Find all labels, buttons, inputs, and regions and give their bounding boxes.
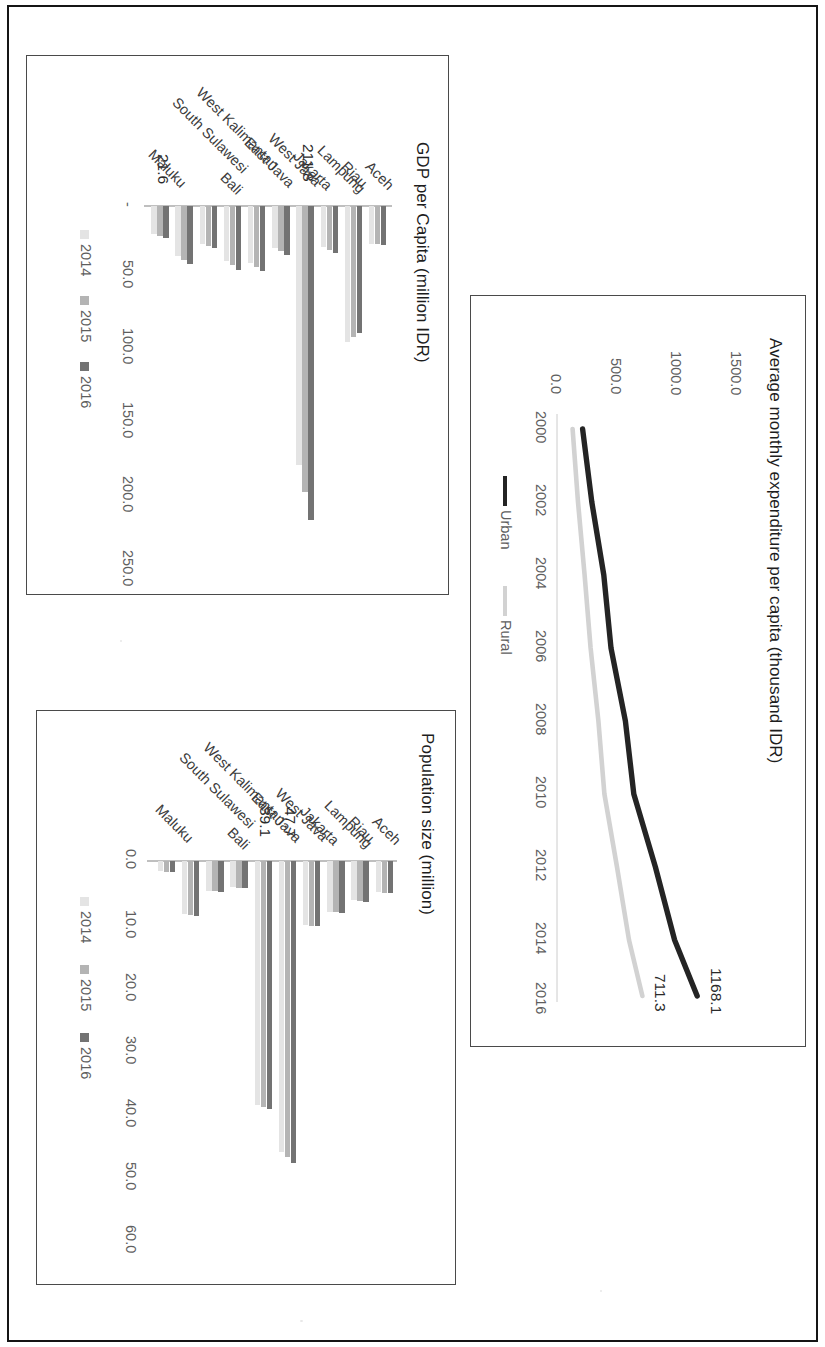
gdp-bar-aceh-2015: [375, 206, 380, 244]
gdp-bar-aceh-2014: [369, 206, 374, 244]
gdp-xtick-0: -: [120, 202, 136, 207]
population-cat-label-maluku: Maluku: [152, 801, 196, 845]
gdp-bar-bali-2014: [224, 206, 229, 261]
expenditure-legend-label-rural[interactable]: Rural: [498, 620, 514, 655]
population-legend-swatch-2015: [80, 965, 89, 974]
population-xtick-0: 0.0: [123, 849, 139, 869]
chart-box-gdp: GDP per Capita (million IDR): [26, 55, 449, 595]
pop-bar-maluku-2015: [164, 861, 169, 872]
population-legend-swatch-2016: [80, 1033, 89, 1042]
pop-bar-west-java-2015: [285, 861, 290, 1157]
pop-bar-jakarta-2014: [303, 861, 308, 925]
gdp-bar-east-java-2014: [248, 206, 253, 263]
expenditure-data-label-urban: 1168.1: [707, 968, 725, 1014]
pop-bar-bali-2014: [230, 861, 235, 887]
gdp-bar-west-java-2014: [272, 206, 277, 248]
population-xtick-1: 10.0: [123, 910, 139, 938]
gdp-xtick-1: 50.0: [120, 260, 136, 288]
pop-bar-east-java-2014: [255, 861, 260, 1105]
expenditure-xtick-2014: 2014: [533, 922, 549, 954]
population-legend-swatch-2014: [80, 897, 89, 906]
gdp-bar-lampung-2014: [321, 206, 326, 247]
expenditure-ytick-2: 1000.0: [668, 351, 684, 395]
gdp-legend-swatch-2015: [80, 296, 89, 305]
gdp-legend-label-2014[interactable]: 2014: [78, 244, 94, 276]
pop-bar-aceh-2015: [382, 861, 387, 893]
expenditure-xtick-2004: 2004: [533, 557, 549, 589]
gdp-xtick-2: 100.0: [120, 328, 136, 364]
gdp-bar-jakarta-2016: [308, 206, 313, 520]
chart-box-expenditure: Average monthly expenditure per capita (…: [470, 295, 806, 1047]
pop-bar-west-kalimantan-2015: [212, 861, 217, 891]
pop-bar-east-java-2016: [267, 861, 272, 1109]
population-xtick-6: 60.0: [123, 1225, 139, 1253]
population-legend-label-2014[interactable]: 2014: [78, 911, 94, 943]
pop-bar-riau-2015: [357, 861, 362, 901]
pop-bar-west-java-2014: [279, 861, 284, 1152]
pop-bar-west-kalimantan-2016: [218, 861, 223, 892]
expenditure-legend-line-urban: [503, 476, 507, 506]
scan-speck: [600, 1290, 602, 1292]
gdp-bar-south-sulawesi-2014: [175, 206, 180, 256]
gdp-bar-maluku-2014: [151, 206, 156, 234]
pop-bar-west-java-2016: [291, 861, 296, 1163]
pop-bar-bali-2016: [242, 861, 247, 888]
gdp-bar-bali-2015: [230, 206, 235, 265]
population-chart-title: Population size (million): [417, 733, 437, 915]
gdp-bar-west-kalimantan-2016: [212, 206, 217, 248]
gdp-bar-south-sulawesi-2016: [187, 206, 192, 264]
pop-bar-riau-2014: [351, 861, 356, 900]
expenditure-xtick-2016: 2016: [533, 982, 549, 1014]
gdp-bar-riau-2015: [351, 206, 356, 337]
pop-bar-riau-2016: [363, 861, 368, 902]
gdp-bar-east-java-2016: [260, 206, 265, 271]
scan-speck: [300, 1320, 303, 1322]
gdp-bar-lampung-2015: [327, 206, 332, 250]
expenditure-legend-line-rural: [503, 586, 507, 616]
scan-speck: [120, 640, 122, 642]
gdp-bar-maluku-2016: [163, 206, 168, 238]
population-legend-label-2015[interactable]: 2015: [78, 979, 94, 1011]
pop-bar-south-sulawesi-2014: [182, 861, 187, 914]
gdp-bar-west-kalimantan-2014: [200, 206, 205, 244]
expenditure-xtick-2002: 2002: [533, 484, 549, 516]
pop-bar-bali-2015: [236, 861, 241, 888]
expenditure-xtick-2000: 2000: [533, 411, 549, 443]
pop-bar-east-java-2015: [261, 861, 266, 1107]
pop-bar-jakarta-2015: [309, 861, 314, 926]
gdp-xtick-3: 150.0: [120, 402, 136, 438]
gdp-bar-jakarta-2014: [296, 206, 301, 465]
expenditure-data-label-rural: 711.3: [651, 974, 669, 1012]
gdp-bar-east-java-2015: [254, 206, 259, 267]
gdp-bar-south-sulawesi-2015: [181, 206, 186, 260]
population-xtick-5: 50.0: [123, 1162, 139, 1190]
gdp-xtick-5: 250.0: [120, 550, 136, 586]
gdp-bar-west-java-2015: [278, 206, 283, 251]
expenditure-xtick-2012: 2012: [533, 849, 549, 881]
scanned-page: GDP per Capita (million IDR): [0, 0, 825, 1347]
pop-bar-aceh-2016: [388, 861, 393, 893]
gdp-bar-aceh-2016: [381, 206, 386, 245]
expenditure-legend-label-urban[interactable]: Urban: [498, 510, 514, 550]
gdp-bar-lampung-2016: [333, 206, 338, 253]
population-xtick-4: 40.0: [123, 1099, 139, 1127]
expenditure-xtick-2008: 2008: [533, 703, 549, 735]
gdp-legend-swatch-2014: [80, 230, 89, 239]
population-legend-label-2016[interactable]: 2016: [78, 1047, 94, 1079]
gdp-legend-label-2015[interactable]: 2015: [78, 310, 94, 342]
gdp-legend-label-2016[interactable]: 2016: [78, 376, 94, 408]
gdp-chart-title: GDP per Capita (million IDR): [412, 142, 432, 363]
pop-bar-jakarta-2016: [315, 861, 320, 926]
gdp-bar-jakarta-2015: [302, 206, 307, 492]
gdp-bar-west-java-2016: [284, 206, 289, 255]
expenditure-ytick-3: 1500.0: [728, 351, 744, 395]
pop-bar-lampung-2015: [333, 861, 338, 912]
population-xtick-2: 20.0: [123, 973, 139, 1001]
expenditure-xtick-2006: 2006: [533, 630, 549, 662]
pop-bar-west-kalimantan-2014: [206, 861, 211, 891]
expenditure-plot: [471, 296, 806, 1047]
gdp-bar-bali-2016: [236, 206, 241, 270]
expenditure-xtick-2010: 2010: [533, 776, 549, 808]
pop-bar-south-sulawesi-2015: [188, 861, 193, 915]
gdp-bar-riau-2016: [357, 206, 362, 333]
